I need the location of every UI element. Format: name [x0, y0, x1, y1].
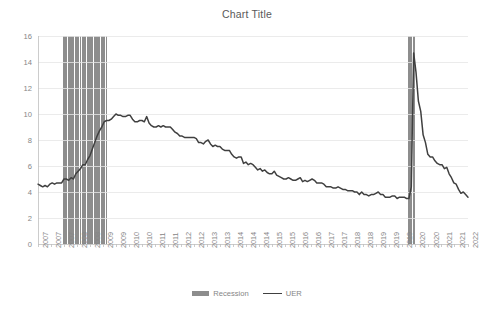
x-tick-label: 2010	[145, 232, 154, 248]
legend-swatch-recession-icon	[192, 291, 209, 296]
x-tick-label: 2014	[249, 232, 258, 248]
legend-item-recession[interactable]: Recession	[192, 289, 248, 298]
x-tick-label: 2015	[275, 232, 284, 248]
x-tick-label: 2013	[223, 232, 232, 248]
x-tick-label: 2009	[119, 232, 128, 248]
x-tick-label: 2017	[327, 232, 336, 248]
x-tick-label: 2020	[432, 232, 441, 248]
x-tick-label: 2019	[405, 232, 414, 248]
x-tick-label: 2008	[80, 232, 89, 248]
x-tick-label: 2019	[392, 232, 401, 248]
x-tick-label: 2013	[210, 232, 219, 248]
legend-label: UER	[286, 289, 302, 298]
x-tick-label: 2016	[314, 232, 323, 248]
legend-swatch-line-icon	[263, 293, 282, 294]
x-tick-label: 2007	[54, 232, 63, 248]
x-tick-label: 2018	[366, 232, 375, 248]
x-tick-label: 2012	[184, 232, 193, 248]
x-tick-label: 2008	[93, 232, 102, 248]
x-tick-label: 2017	[340, 232, 349, 248]
x-tick-label: 2011	[171, 233, 180, 249]
x-tick-label: 2019	[379, 232, 388, 248]
x-tick-label: 2014	[236, 232, 245, 248]
x-tick-label: 2007	[67, 232, 76, 248]
x-axis: 2007200720072008200820092009201020102011…	[0, 0, 494, 314]
x-tick-label: 2020	[418, 232, 427, 248]
x-tick-label: 2009	[106, 232, 115, 248]
legend-label: Recession	[213, 289, 248, 298]
x-tick-label: 2016	[301, 232, 310, 248]
x-tick-label: 2018	[353, 232, 362, 248]
chart-container: Chart Title 0246810121416 20072007200720…	[0, 0, 494, 314]
x-tick-label: 2021	[458, 232, 467, 248]
x-tick-label: 2012	[197, 232, 206, 248]
x-tick-label: 2014	[262, 232, 271, 248]
x-tick-label: 2010	[132, 232, 141, 248]
legend-item-uer[interactable]: UER	[263, 289, 302, 298]
x-tick-label: 2022	[471, 232, 480, 248]
x-tick-label: 2021	[445, 232, 454, 248]
x-tick-label: 2011	[158, 233, 167, 249]
x-tick-label: 2007	[41, 232, 50, 248]
chart-legend: RecessionUER	[0, 289, 494, 298]
x-tick-label: 2015	[288, 232, 297, 248]
